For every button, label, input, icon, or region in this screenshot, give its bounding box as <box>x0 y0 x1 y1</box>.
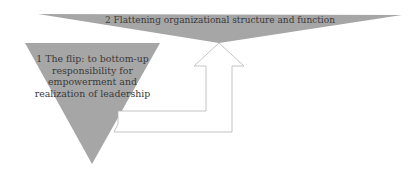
left-triangle-label: 1 The flip: to bottom-up responsibility … <box>30 53 155 99</box>
top-triangle-label: 2 Flattening organizational structure an… <box>60 15 380 25</box>
